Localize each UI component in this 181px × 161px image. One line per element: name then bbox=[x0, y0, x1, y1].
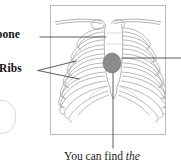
caption-text: You can find bbox=[64, 150, 126, 161]
label-ribs: Ribs bbox=[0, 63, 22, 75]
label-breastbone: tbone bbox=[0, 29, 20, 41]
ribs-right bbox=[118, 28, 168, 122]
heart-shape bbox=[103, 53, 121, 73]
xiphoid-process bbox=[110, 88, 117, 99]
figure-caption: You can find the bbox=[64, 150, 140, 161]
ribcage-illustration bbox=[0, 0, 181, 161]
ribs-leader-line-lower bbox=[38, 71, 79, 80]
caption-italic-text: the bbox=[126, 150, 140, 161]
ribs-left bbox=[59, 28, 109, 122]
figure-container: tbone Ribs You can find the bbox=[0, 0, 181, 161]
